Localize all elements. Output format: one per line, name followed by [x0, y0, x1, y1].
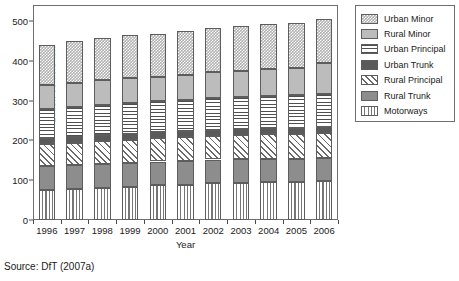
- bar-segment: [177, 75, 194, 100]
- bar-segment: [316, 94, 333, 127]
- bar-1997: [66, 41, 83, 220]
- bar-segment: [177, 31, 194, 75]
- bar-segment: [205, 28, 222, 72]
- x-tick-mark: [255, 220, 256, 224]
- bar-segment: [288, 95, 305, 127]
- bar-segment: [177, 100, 194, 131]
- bar-segment: [233, 129, 250, 135]
- bar-segment: [66, 143, 83, 165]
- x-tick-mark: [310, 220, 311, 224]
- bar-segment: [288, 134, 305, 159]
- x-axis-title: Year: [176, 239, 195, 250]
- x-tick-label-1996: 1996: [36, 225, 57, 236]
- legend-item-rural-minor[interactable]: Rural Minor: [361, 26, 450, 41]
- bar-segment: [150, 132, 167, 138]
- x-tick-label-2005: 2005: [286, 225, 307, 236]
- bar-segment: [94, 135, 111, 141]
- bar-2002: [205, 28, 222, 220]
- bar-segment: [233, 26, 250, 71]
- bar-segment: [94, 188, 111, 220]
- bar-segment: [205, 136, 222, 160]
- bar-segment: [39, 109, 56, 139]
- x-tick-mark: [199, 220, 200, 224]
- bar-segment: [150, 101, 167, 132]
- legend-swatch-icon: [361, 14, 378, 24]
- x-tick-label-2003: 2003: [230, 225, 251, 236]
- legend-item-rural-principal[interactable]: Rural Principal: [361, 73, 450, 88]
- bar-segment: [288, 182, 305, 220]
- bar-segment: [94, 38, 111, 81]
- bar-segment: [316, 158, 333, 181]
- bar-segment: [66, 137, 83, 143]
- x-tick-mark: [61, 220, 62, 224]
- bar-segment: [39, 45, 56, 85]
- bar-segment: [94, 80, 111, 104]
- x-tick-mark: [88, 220, 89, 224]
- bar-segment: [66, 165, 83, 189]
- bar-segment: [177, 185, 194, 220]
- chart-figure: Billion vehicle-km 0100200300400500 1996…: [0, 0, 459, 281]
- bar-segment: [233, 97, 250, 129]
- bar-segment: [150, 162, 167, 186]
- legend-item-urban-principal[interactable]: Urban Principal: [361, 42, 450, 57]
- bar-segment: [205, 183, 222, 220]
- legend-swatch-icon: [361, 44, 378, 54]
- legend-label: Rural Trunk: [384, 91, 431, 101]
- legend-label: Rural Minor: [384, 29, 431, 39]
- legend-item-urban-trunk[interactable]: Urban Trunk: [361, 57, 450, 72]
- bar-segment: [233, 183, 250, 220]
- bar-segment: [39, 138, 56, 144]
- x-tick-mark: [227, 220, 228, 224]
- y-tick-mark: [29, 20, 33, 21]
- bar-segment: [177, 161, 194, 185]
- bar-segment: [122, 187, 139, 220]
- bar-2001: [177, 31, 194, 220]
- bar-segment: [177, 137, 194, 160]
- bar-segment: [94, 141, 111, 164]
- bar-segment: [316, 133, 333, 158]
- bar-segment: [122, 35, 139, 78]
- chart-legend: Urban MinorRural MinorUrban PrincipalUrb…: [355, 5, 455, 122]
- legend-item-urban-minor[interactable]: Urban Minor: [361, 11, 450, 26]
- bar-segment: [39, 166, 56, 190]
- x-tick-label-2006: 2006: [314, 225, 335, 236]
- bar-2005: [288, 23, 305, 220]
- bar-segment: [288, 159, 305, 182]
- legend-swatch-icon: [361, 60, 378, 70]
- bar-segment: [122, 140, 139, 163]
- bar-segment: [122, 134, 139, 140]
- source-note: Source: DfT (2007a): [4, 261, 94, 272]
- legend-swatch-icon: [361, 75, 378, 85]
- legend-item-motorways[interactable]: Motorways: [361, 103, 450, 118]
- legend-item-rural-trunk[interactable]: Rural Trunk: [361, 88, 450, 103]
- bar-segment: [150, 34, 167, 77]
- bar-segment: [94, 105, 111, 136]
- legend-label: Urban Trunk: [384, 60, 434, 70]
- y-tick-mark: [29, 140, 33, 141]
- legend-swatch-icon: [361, 29, 378, 39]
- bar-segment: [150, 185, 167, 220]
- bar-2003: [233, 26, 250, 220]
- bar-segment: [177, 131, 194, 137]
- bar-segment: [205, 160, 222, 184]
- bar-segment: [316, 181, 333, 220]
- x-tick-mark: [116, 220, 117, 224]
- bar-segment: [260, 159, 277, 182]
- legend-label: Motorways: [384, 106, 428, 116]
- bar-segment: [260, 69, 277, 96]
- legend-label: Rural Principal: [384, 75, 443, 85]
- bar-segment: [288, 68, 305, 96]
- bar-1999: [122, 35, 139, 220]
- bar-segment: [316, 19, 333, 63]
- bar-segment: [66, 83, 83, 107]
- x-tick-mark: [338, 220, 339, 224]
- bar-segment: [39, 85, 56, 109]
- bar-segment: [316, 63, 333, 94]
- bar-segment: [233, 159, 250, 183]
- y-tick-mark: [29, 180, 33, 181]
- x-tick-mark: [172, 220, 173, 224]
- bar-segment: [122, 78, 139, 103]
- x-tick-label-2001: 2001: [175, 225, 196, 236]
- bar-segment: [205, 72, 222, 98]
- legend-swatch-icon: [361, 106, 378, 116]
